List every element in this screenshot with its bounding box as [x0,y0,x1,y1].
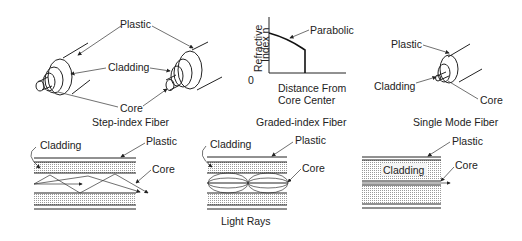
single-rays-plastic-label: Plastic [452,135,483,147]
step-rays-core-label: Core [152,163,175,175]
graph-xlabel-2: Core Center [278,94,336,106]
graded-index-caption: Graded-index Fiber [256,116,347,128]
single-core-label: Core [480,94,503,106]
graph-ylabel-2-visible: Index n [259,27,271,62]
graded-index-cross-section [207,157,288,209]
step-rays-plastic-label: Plastic [146,135,177,147]
single-cladding-label: Cladding [374,80,416,92]
single-rays-core-label: Core [455,159,478,171]
graph-origin: 0 [248,74,254,86]
single-mode-caption: Single Mode Fiber [413,116,499,128]
single-plastic-label: Plastic [391,38,422,50]
graph-xlabel-1: Distance From [278,82,347,94]
fiber-diagram: Plastic Cladding Core Step-index Fiber R… [0,0,522,241]
parabolic-label: Parabolic [310,24,354,36]
step-index-fiber-right [166,42,222,91]
graded-rays-plastic-label: Plastic [295,134,326,146]
step-index-cross-section [34,158,148,209]
step-core-label: Core [120,102,143,114]
step-index-fiber-left [36,43,90,95]
single-rays-cladding-label: Cladding [383,164,425,176]
step-cladding-label: Cladding [108,61,150,73]
step-rays-cladding-label: Cladding [40,139,82,151]
step-index-caption: Step-index Fiber [92,116,170,128]
light-rays-caption: Light Rays [221,215,271,227]
graded-rays-cladding-label: Cladding [210,138,252,150]
graded-rays-core-label: Core [302,162,325,174]
single-mode-fiber [436,44,483,83]
step-plastic-label: Plastic [120,18,151,30]
